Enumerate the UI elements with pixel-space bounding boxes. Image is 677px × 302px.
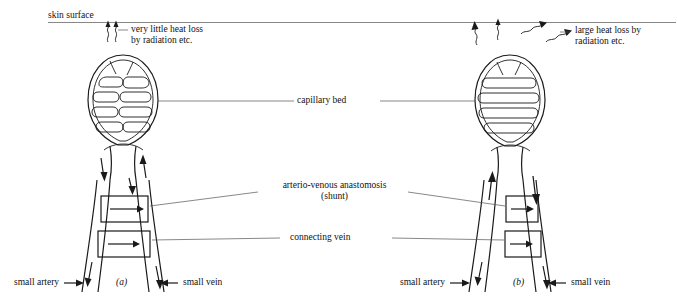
label-small-artery-right: small artery (400, 277, 445, 288)
caption-panel-b: (b) (513, 277, 524, 288)
label-arterio-venous-anastomosis: arterio-venous anastomosis (shunt) (262, 180, 407, 202)
label-leader-arrows (64, 30, 570, 287)
panel-b-artwork (380, 19, 572, 293)
label-skin-surface: skin surface (48, 10, 94, 21)
label-connecting-vein: connecting vein (290, 232, 350, 243)
label-capillary-bed: capillary bed (297, 95, 346, 106)
label-small-vein-left: small vein (183, 277, 222, 288)
label-small-vein-right: small vein (571, 277, 610, 288)
label-very-little-heat-loss: very little heat loss by radiation etc. (131, 24, 203, 46)
figure-canvas: skin surface very little heat loss by ra… (0, 0, 677, 302)
label-small-artery-left: small artery (14, 277, 59, 288)
label-large-heat-loss: large heat loss by radiation etc. (575, 25, 641, 47)
panel-a-artwork (82, 21, 294, 293)
caption-panel-a: (a) (116, 277, 127, 288)
